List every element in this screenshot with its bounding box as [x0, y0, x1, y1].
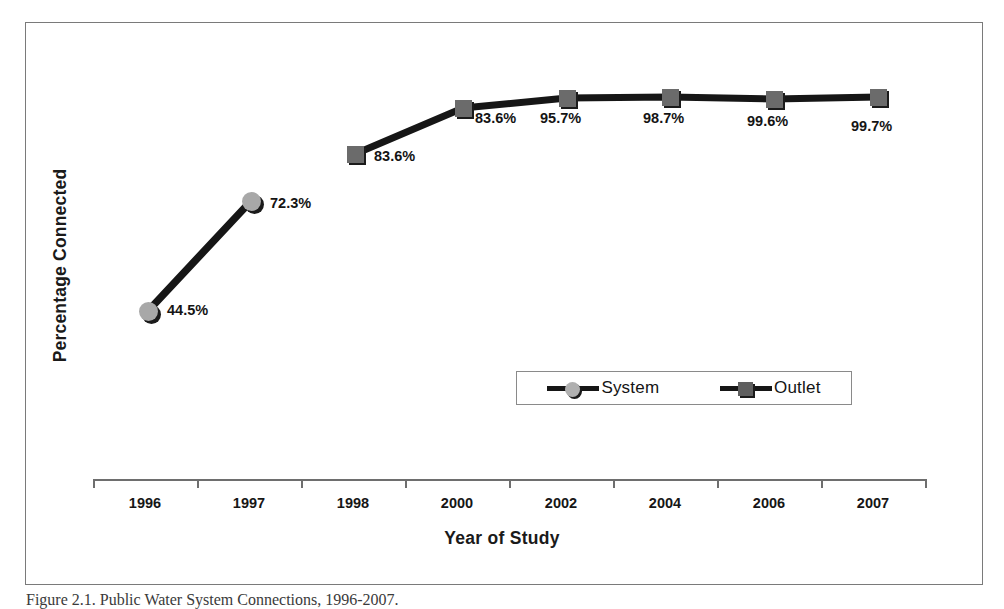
x-axis-tick — [925, 479, 927, 488]
x-axis-tick — [509, 479, 511, 488]
data-label-outlet-2004: 98.7% — [643, 110, 684, 126]
square-marker-icon — [720, 379, 772, 397]
legend-entry-outlet[interactable]: Outlet — [720, 378, 821, 398]
data-point-outlet-2002[interactable] — [559, 90, 576, 107]
x-axis-title: Year of Study — [0, 528, 1004, 549]
data-point-outlet-2000[interactable] — [455, 100, 472, 117]
chart-legend: System Outlet — [516, 371, 852, 405]
x-tick-label-2006: 2006 — [724, 495, 814, 511]
data-point-outlet-2006[interactable] — [766, 91, 783, 108]
legend-label-system: System — [601, 378, 659, 398]
x-axis-tick — [405, 479, 407, 488]
legend-label-outlet: Outlet — [774, 378, 821, 398]
data-label-system-1997: 72.3% — [270, 195, 311, 211]
x-tick-label-2002: 2002 — [516, 495, 606, 511]
x-tick-label-1996: 1996 — [100, 495, 190, 511]
data-label-outlet-2002: 95.7% — [540, 110, 581, 126]
data-point-outlet-1998[interactable] — [347, 146, 364, 163]
x-axis-tick — [821, 479, 823, 488]
circle-marker-icon — [547, 379, 599, 397]
data-label-outlet-2006: 99.6% — [747, 113, 788, 129]
data-point-system-1997[interactable] — [242, 192, 261, 211]
data-label-outlet-1998: 83.6% — [374, 148, 415, 164]
legend-entry-system[interactable]: System — [547, 378, 659, 398]
data-point-outlet-2004[interactable] — [662, 89, 679, 106]
data-label-system-1996: 44.5% — [167, 302, 208, 318]
data-point-outlet-2007[interactable] — [870, 89, 887, 106]
x-tick-label-1997: 1997 — [204, 495, 294, 511]
x-tick-label-2007: 2007 — [828, 495, 918, 511]
figure-caption: Figure 2.1. Public Water System Connecti… — [26, 591, 926, 609]
x-axis-tick — [613, 479, 615, 488]
x-tick-label-2004: 2004 — [620, 495, 710, 511]
x-tick-label-1998: 1998 — [308, 495, 398, 511]
data-point-system-1996[interactable] — [139, 302, 158, 321]
x-axis-tick — [197, 479, 199, 488]
x-axis-tick — [717, 479, 719, 488]
x-axis-tick — [93, 479, 95, 488]
x-tick-label-2000: 2000 — [412, 495, 502, 511]
x-axis-tick — [301, 479, 303, 488]
y-axis-title: Percentage Connected — [50, 151, 71, 381]
data-label-outlet-2007: 99.7% — [851, 118, 892, 134]
data-label-outlet-2000: 83.6% — [475, 110, 516, 126]
